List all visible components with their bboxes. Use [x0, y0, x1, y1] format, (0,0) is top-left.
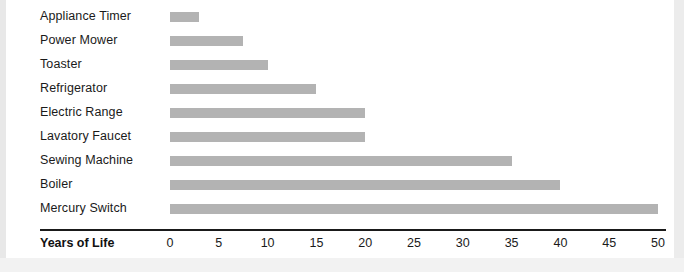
- chart-row: Boiler: [6, 174, 674, 198]
- bar: [170, 204, 658, 214]
- x-tick-label: 45: [602, 236, 616, 250]
- chart-row: Electric Range: [6, 102, 674, 126]
- x-tick-label: 5: [215, 236, 222, 250]
- bar: [170, 108, 365, 118]
- bar-track: [170, 12, 658, 22]
- x-tick-label: 20: [358, 236, 372, 250]
- x-axis-title: Years of Life: [40, 236, 114, 250]
- chart-row: Appliance Timer: [6, 6, 674, 30]
- bar: [170, 132, 365, 142]
- bar-category-label: Electric Range: [40, 105, 123, 119]
- chart-row: Sewing Machine: [6, 150, 674, 174]
- bar-category-label: Mercury Switch: [40, 201, 127, 215]
- bar-category-label: Power Mower: [40, 33, 118, 47]
- bar-track: [170, 132, 658, 142]
- x-tick-label: 40: [553, 236, 567, 250]
- bar-category-label: Toaster: [40, 57, 82, 71]
- bar-category-label: Appliance Timer: [40, 9, 131, 23]
- chart-rows: Appliance TimerPower MowerToasterRefrige…: [6, 6, 674, 222]
- bar: [170, 156, 512, 166]
- bar-category-label: Sewing Machine: [40, 153, 133, 167]
- bar-category-label: Lavatory Faucet: [40, 129, 131, 143]
- bar: [170, 180, 560, 190]
- bar-track: [170, 204, 658, 214]
- x-tick-label: 0: [167, 236, 174, 250]
- x-tick-label: 35: [505, 236, 519, 250]
- chart-row: Power Mower: [6, 30, 674, 54]
- bar-track: [170, 84, 658, 94]
- x-tick-label: 10: [261, 236, 275, 250]
- chart-row: Mercury Switch: [6, 198, 674, 222]
- bar-track: [170, 108, 658, 118]
- page-edge-right: [674, 0, 684, 272]
- chart-row: Lavatory Faucet: [6, 126, 674, 150]
- bar-track: [170, 36, 658, 46]
- chart-row: Toaster: [6, 54, 674, 78]
- page-edge-bottom: [0, 258, 684, 272]
- bar: [170, 12, 199, 22]
- bar-track: [170, 60, 658, 70]
- x-tick-label: 30: [456, 236, 470, 250]
- horizontal-bar-chart: Appliance TimerPower MowerToasterRefrige…: [6, 0, 674, 258]
- bar: [170, 60, 268, 70]
- bar-category-label: Refrigerator: [40, 81, 107, 95]
- x-tick-label: 50: [651, 236, 665, 250]
- chart-page: Appliance TimerPower MowerToasterRefrige…: [0, 0, 684, 272]
- bar-category-label: Boiler: [40, 177, 73, 191]
- x-tick-label: 25: [407, 236, 421, 250]
- chart-row: Refrigerator: [6, 78, 674, 102]
- bar: [170, 84, 316, 94]
- bar: [170, 36, 243, 46]
- bar-track: [170, 156, 658, 166]
- x-axis: Years of Life 05101520253035404550: [6, 231, 674, 257]
- bar-track: [170, 180, 658, 190]
- x-tick-label: 15: [309, 236, 323, 250]
